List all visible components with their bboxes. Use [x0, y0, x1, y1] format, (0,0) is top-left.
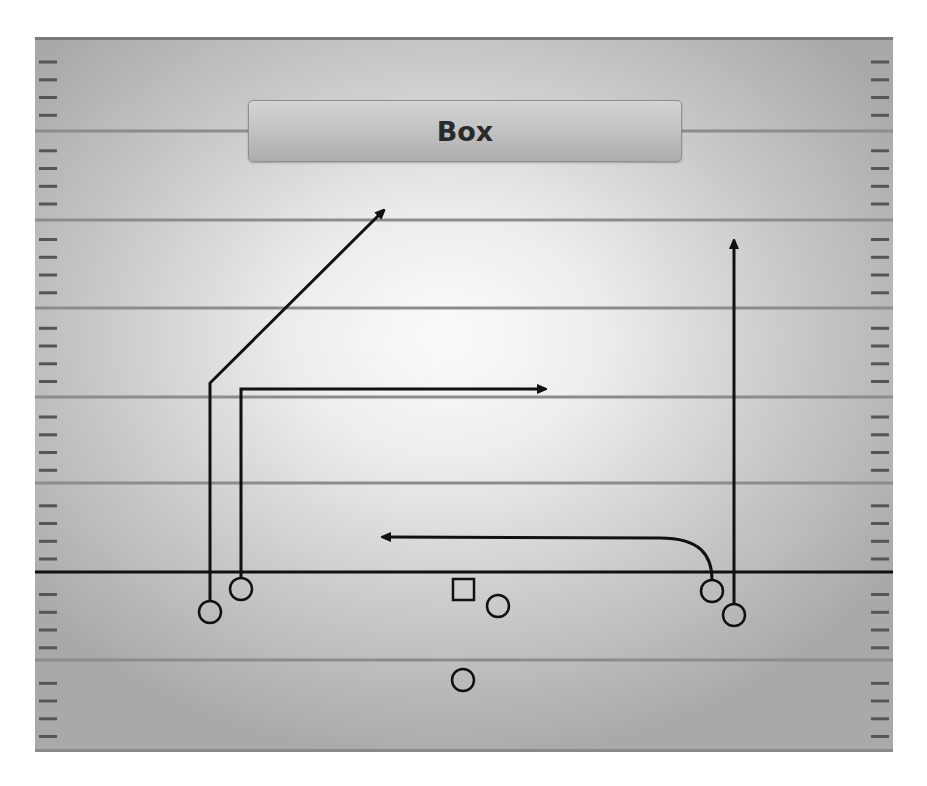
- left-slot-receiver: [230, 578, 252, 600]
- right-hash-marks: [871, 62, 889, 737]
- right-slot-receiver: [701, 580, 723, 602]
- running-back: [452, 669, 474, 691]
- quarterback: [487, 595, 509, 617]
- play-title: Box: [437, 116, 494, 147]
- yard-lines: [35, 131, 893, 660]
- routes: [210, 214, 734, 604]
- right-wide-receiver: [723, 604, 745, 626]
- players: [199, 578, 745, 691]
- left-hash-marks: [39, 62, 57, 737]
- play-title-box: Box: [248, 100, 682, 162]
- route-post: [210, 214, 380, 601]
- route-swing: [388, 537, 712, 580]
- center: [453, 579, 474, 600]
- left-wide-receiver: [199, 601, 221, 623]
